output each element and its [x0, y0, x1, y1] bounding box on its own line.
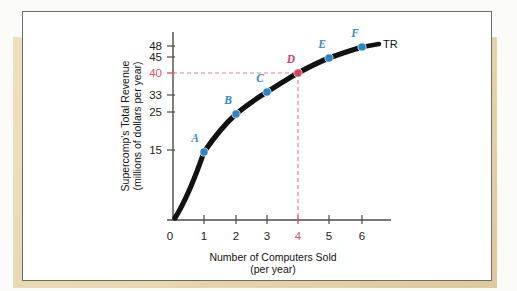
data-point-f[interactable]	[358, 43, 366, 51]
data-point-label-a: A	[190, 132, 199, 144]
x-tick-label-5: 5	[326, 230, 332, 242]
x-tick-label-0: 0	[167, 230, 173, 242]
data-point-a[interactable]	[200, 148, 208, 156]
figure-page: 48 45 40 33 25 15 0 1 2	[0, 0, 517, 291]
y-tick-label-33: 33	[149, 89, 162, 101]
y-axis-subtitle: (millions of dollars per year)	[131, 62, 143, 191]
x-tick-label-1: 1	[201, 230, 207, 242]
y-tick-label-45: 45	[149, 51, 162, 63]
y-tick-label-40: 40	[149, 67, 162, 79]
data-point-label-f: F	[350, 27, 359, 39]
x-tick-label-4: 4	[295, 230, 302, 242]
tr-series-label: TR	[383, 38, 398, 50]
y-tick-label-15: 15	[149, 144, 162, 156]
x-axis-subtitle: (per year)	[250, 263, 296, 275]
total-revenue-chart: 48 45 40 33 25 15 0 1 2	[23, 12, 493, 282]
data-point-d[interactable]	[294, 69, 302, 77]
x-axis-title: Number of Computers Sold	[209, 251, 336, 263]
x-tick-label-6: 6	[359, 230, 365, 242]
data-point-c[interactable]	[263, 88, 271, 96]
data-point-label-c: C	[256, 72, 264, 84]
y-axis-title: Supercomp's Total Revenue	[119, 60, 131, 191]
data-point-label-b: B	[223, 94, 232, 106]
x-tick-label-2: 2	[233, 230, 239, 242]
data-point-label-e: E	[317, 38, 326, 50]
y-axis-ticks	[167, 46, 175, 150]
x-tick-label-3: 3	[264, 230, 270, 242]
plot-area: 48 45 40 33 25 15 0 1 2	[23, 12, 493, 282]
data-point-e[interactable]	[325, 54, 333, 62]
figure-panel: 48 45 40 33 25 15 0 1 2	[22, 11, 492, 281]
data-point-label-d: D	[286, 53, 296, 65]
y-tick-label-25: 25	[149, 106, 162, 118]
data-point-b[interactable]	[232, 110, 240, 118]
